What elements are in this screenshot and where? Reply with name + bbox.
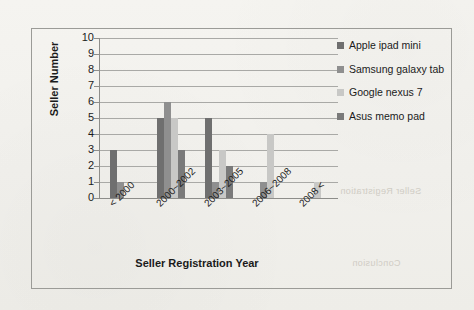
legend-item: Asus memo pad bbox=[337, 110, 449, 123]
y-axis-tick-label: 10 bbox=[70, 32, 94, 43]
y-axis-tick bbox=[94, 102, 99, 103]
legend-item: Apple ipad mini bbox=[337, 39, 449, 52]
y-axis-tick bbox=[94, 118, 99, 119]
y-axis-tick-label: 2 bbox=[70, 160, 94, 171]
y-axis-tick bbox=[94, 38, 99, 39]
bar-group bbox=[100, 38, 148, 198]
legend-swatch bbox=[337, 66, 344, 73]
y-axis-tick-label: 9 bbox=[70, 48, 94, 59]
y-axis-tick bbox=[94, 134, 99, 135]
chart-figure: Seller Number 012345678910 < 20002000~20… bbox=[31, 28, 452, 289]
y-axis-title: Seller Number bbox=[48, 24, 60, 134]
y-axis-tick-label: 6 bbox=[70, 96, 94, 107]
plot-area: 012345678910 bbox=[99, 38, 338, 199]
y-axis-tick bbox=[94, 86, 99, 87]
y-axis-tick-label: 8 bbox=[70, 64, 94, 75]
y-axis-tick-label: 5 bbox=[70, 112, 94, 123]
bar-group bbox=[290, 38, 338, 198]
y-axis-tick bbox=[94, 166, 99, 167]
y-axis-tick bbox=[94, 182, 99, 183]
legend-label: Samsung galaxy tab bbox=[349, 63, 444, 76]
legend-item: Google nexus 7 bbox=[337, 86, 449, 99]
x-axis-title: Seller Registration Year bbox=[32, 257, 362, 269]
legend-item: Samsung galaxy tab bbox=[337, 63, 449, 76]
bar-groups bbox=[100, 38, 338, 198]
legend-swatch bbox=[337, 89, 344, 96]
bar bbox=[157, 118, 164, 198]
y-axis-tick bbox=[94, 150, 99, 151]
y-axis-tick-label: 1 bbox=[70, 176, 94, 187]
y-axis-tick bbox=[94, 198, 99, 199]
chart-legend: Apple ipad miniSamsung galaxy tabGoogle … bbox=[337, 39, 449, 133]
y-axis-tick-label: 4 bbox=[70, 128, 94, 139]
y-axis-tick bbox=[94, 70, 99, 71]
legend-label: Asus memo pad bbox=[349, 110, 425, 123]
y-axis-tick-label: 3 bbox=[70, 144, 94, 155]
legend-swatch bbox=[337, 42, 344, 49]
bar bbox=[205, 118, 212, 198]
y-axis-tick-label: 0 bbox=[70, 192, 94, 203]
legend-label: Google nexus 7 bbox=[349, 86, 423, 99]
y-axis-tick bbox=[94, 54, 99, 55]
x-axis-tick-labels: < 20002000~20022003~20052006~20082008 < bbox=[99, 201, 337, 259]
legend-label: Apple ipad mini bbox=[349, 39, 421, 52]
y-axis-tick-label: 7 bbox=[70, 80, 94, 91]
legend-swatch bbox=[337, 113, 344, 120]
